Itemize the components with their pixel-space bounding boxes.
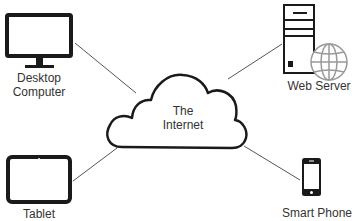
- smart-phone-label: Smart Phone: [277, 206, 357, 220]
- line-tablet-internet: [73, 148, 117, 181]
- internet-label-line2: Internet: [153, 118, 213, 132]
- smart-phone-icon: [302, 158, 321, 196]
- web-server-icon: [284, 5, 314, 73]
- tablet-icon: [8, 157, 70, 202]
- desktop-label-line1: Desktop: [5, 71, 73, 85]
- desktop-label: Desktop Computer: [5, 71, 73, 99]
- desktop-label-line2: Computer: [5, 85, 73, 99]
- line-phone-internet: [244, 146, 300, 180]
- globe-icon: [311, 44, 347, 80]
- web-server-label: Web Server: [283, 79, 355, 93]
- tablet-label: Tablet: [4, 207, 74, 221]
- internet-label: The Internet: [153, 104, 213, 132]
- internet-label-line1: The: [153, 104, 213, 118]
- desktop-computer-icon: [7, 15, 71, 68]
- line-server-internet: [228, 44, 282, 79]
- network-diagram: The Internet Desktop Computer Web Server…: [0, 0, 360, 221]
- line-desktop-internet: [75, 43, 136, 93]
